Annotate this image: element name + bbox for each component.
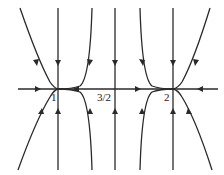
arrow-curve-upper-right-2: [193, 59, 199, 66]
arrow-down-at-3-2: [112, 60, 118, 66]
axis-arrow-left-4: [197, 86, 203, 92]
arrow-curve-upper-left-1: [33, 59, 39, 66]
axis-arrow-right-1: [35, 86, 41, 92]
curve-upper-left-of-2: [140, 8, 173, 89]
label-point-2: 2: [164, 91, 170, 103]
arrow-down-at-1: [55, 60, 61, 66]
arrow-curve-lower-left-2: [139, 108, 145, 114]
curve-lower-right-of-1: [58, 89, 92, 170]
phase-portrait-diagram: 1 3/2 2: [0, 0, 224, 175]
curve-upper-right-of-2: [173, 8, 210, 89]
curve-upper-left-of-1: [20, 8, 58, 89]
curve-upper-right-of-1: [58, 8, 92, 89]
arrow-curve-lower-right-1: [87, 108, 93, 114]
axis-arrow-right-3: [135, 86, 141, 92]
curve-lower-right-of-2: [173, 89, 212, 170]
arrow-up-at-2: [170, 108, 176, 114]
label-point-3-2: 3/2: [97, 91, 111, 103]
label-point-1: 1: [51, 91, 57, 103]
arrow-up-at-1: [55, 108, 61, 114]
arrow-up-at-3-2: [112, 108, 118, 114]
arrow-down-at-2: [170, 60, 176, 66]
